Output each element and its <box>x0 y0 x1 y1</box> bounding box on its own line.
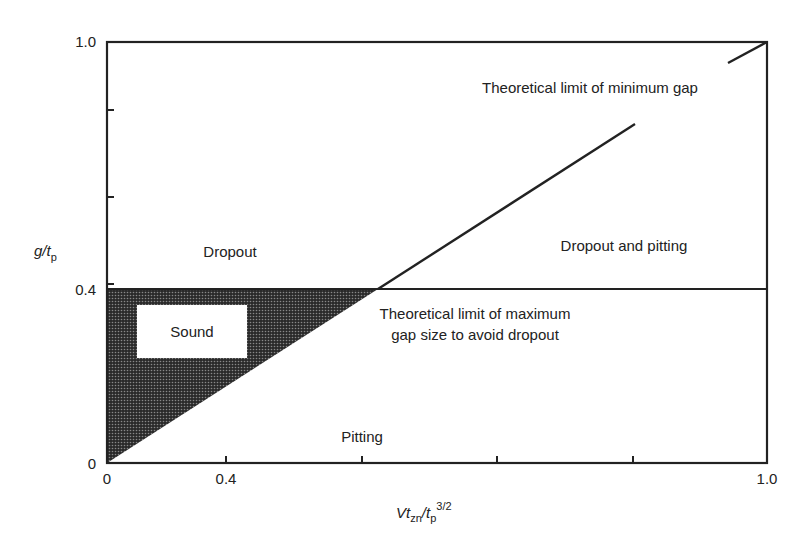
max-gap-annotation-line2: gap size to avoid dropout <box>391 326 559 343</box>
x-tick-label-left: 0 <box>103 470 111 487</box>
x-axis-label: Vtzn/tp3/2 <box>396 500 452 524</box>
x-tick-label-right: 1.0 <box>757 470 778 487</box>
region-label-pitting: Pitting <box>341 428 383 445</box>
min-gap-annotation: Theoretical limit of minimum gap <box>482 79 698 96</box>
min-gap-limit-line <box>378 124 635 289</box>
x-tick-label-mid: 0.4 <box>216 470 237 487</box>
y-tick-label-top: 1.0 <box>75 33 96 50</box>
y-tick-label-bottom: 0 <box>88 455 96 472</box>
region-label-sound: Sound <box>170 323 213 340</box>
max-gap-annotation-line1: Theoretical limit of maximum <box>380 305 571 322</box>
min-gap-limit-line-top <box>728 42 767 63</box>
y-tick-label-mid: 0.4 <box>75 281 96 298</box>
process-window-diagram: 1.0 0.4 0 0 0.4 1.0 g/tp Vtzn/tp3/2 Soun… <box>0 0 805 548</box>
region-label-dropout-pitting: Dropout and pitting <box>561 237 688 254</box>
region-label-dropout: Dropout <box>203 243 257 260</box>
y-axis-label: g/tp <box>34 242 57 263</box>
